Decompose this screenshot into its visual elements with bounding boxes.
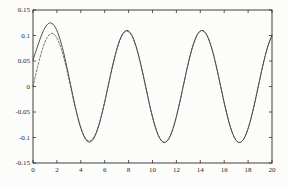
x-tick-label: 18 <box>245 166 253 174</box>
x-tick-label: 2 <box>55 166 59 174</box>
x-tick-label: 12 <box>173 166 181 174</box>
x-tick-label: 20 <box>269 166 277 174</box>
x-tick-label: 14 <box>197 166 205 174</box>
y-tick-label: 0.1 <box>21 32 30 40</box>
x-tick-label: 8 <box>127 166 131 174</box>
line-chart: 02468101214161820-0.15-0.1-0.0500.050.10… <box>0 0 288 186</box>
y-tick-label: -0.1 <box>19 134 31 142</box>
y-tick-label: 0 <box>27 83 31 91</box>
x-tick-label: 10 <box>149 166 157 174</box>
y-tick-label: 0.15 <box>18 6 31 14</box>
x-tick-label: 0 <box>31 166 35 174</box>
y-tick-label: -0.05 <box>15 108 30 116</box>
x-tick-label: 6 <box>103 166 107 174</box>
y-tick-label: -0.15 <box>15 159 30 167</box>
x-tick-label: 16 <box>221 166 229 174</box>
figure: 02468101214161820-0.15-0.1-0.0500.050.10… <box>0 0 288 186</box>
y-tick-label: 0.05 <box>18 57 31 65</box>
x-tick-label: 4 <box>79 166 83 174</box>
